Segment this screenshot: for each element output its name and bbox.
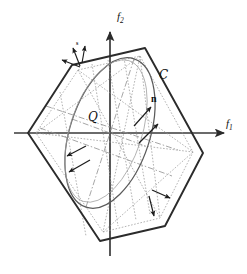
dotted-diag-7 bbox=[103, 152, 193, 232]
axis-label-f1-subscript: 1 bbox=[229, 123, 233, 132]
dotted-diag-2 bbox=[36, 133, 193, 152]
normal-arrow-4 bbox=[69, 160, 90, 172]
axis-label-f2: f2 bbox=[117, 11, 124, 25]
normal-arrow-3 bbox=[67, 146, 86, 156]
polytope-C-outline bbox=[28, 48, 203, 241]
dotted-diag-5 bbox=[103, 56, 140, 232]
diagram-svg bbox=[0, 0, 247, 274]
axis-label-f2-subscript: 2 bbox=[120, 16, 124, 25]
support-vector-label-s: s bbox=[76, 40, 78, 46]
axis-label-f1: f1 bbox=[226, 118, 233, 132]
normal-vectors-group bbox=[62, 46, 170, 216]
normal-vector-label-n: n bbox=[151, 94, 157, 104]
figure-canvas: f2 f1 C Q n s bbox=[0, 0, 247, 274]
polytope-label-C: C bbox=[159, 69, 168, 81]
support-arrow-3 bbox=[82, 46, 85, 63]
dotted-vert-2 bbox=[108, 60, 136, 220]
ellipsoid-label-Q: Q bbox=[88, 111, 98, 123]
inner-hexagon-dotted bbox=[36, 56, 193, 232]
normal-arrow-5 bbox=[152, 190, 170, 198]
